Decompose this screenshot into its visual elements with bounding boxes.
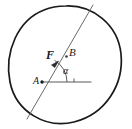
force-vector-label: F <box>46 49 54 61</box>
chord-line <box>27 5 93 119</box>
geometry-figure: F B A α <box>0 0 132 129</box>
point-b-marker <box>65 55 68 58</box>
point-a-marker <box>40 80 43 83</box>
point-b-label: B <box>69 47 76 58</box>
point-a-label: A <box>33 76 39 86</box>
angle-alpha-label: α <box>63 66 68 76</box>
